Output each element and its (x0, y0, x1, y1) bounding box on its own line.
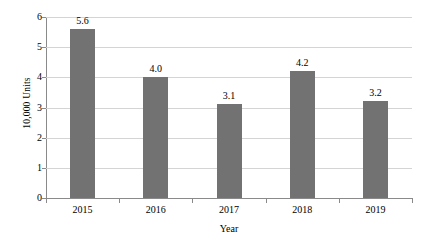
x-tick-mark-2 (192, 198, 193, 203)
plot-area: 5.64.03.14.23.2 (46, 17, 412, 198)
y-tick-label-0: 0 (20, 193, 42, 203)
y-tick-label-4: 4 (20, 72, 42, 82)
bar-2015 (70, 29, 95, 198)
x-tick-label-2019: 2019 (339, 204, 412, 216)
bar-2017 (217, 104, 242, 198)
x-tick-mark-0 (46, 198, 47, 203)
x-axis-title: Year (46, 223, 412, 235)
gridline-0 (46, 198, 412, 199)
y-tick-label-6: 6 (20, 12, 42, 22)
x-tick-label-2016: 2016 (119, 204, 192, 216)
y-tick-label-2: 2 (20, 133, 42, 143)
gridline-4 (46, 77, 412, 78)
bar-value-label-2016: 4.0 (136, 63, 176, 74)
x-tick-mark-1 (119, 198, 120, 203)
y-tick-label-3: 3 (20, 103, 42, 113)
x-tick-mark-4 (339, 198, 340, 203)
x-tick-label-2018: 2018 (266, 204, 339, 216)
bar-value-label-2019: 3.2 (355, 87, 395, 98)
bar-value-label-2015: 5.6 (63, 15, 103, 26)
bar-value-label-2017: 3.1 (209, 90, 249, 101)
bar-value-label-2018: 4.2 (282, 57, 322, 68)
bar-2016 (143, 77, 168, 198)
gridline-5 (46, 47, 412, 48)
x-tick-label-2017: 2017 (192, 204, 265, 216)
bar-2018 (290, 71, 315, 198)
y-tick-label-5: 5 (20, 42, 42, 52)
x-tick-mark-3 (266, 198, 267, 203)
y-tick-label-1: 1 (20, 163, 42, 173)
y-axis-ticks: 0123456 (0, 17, 42, 199)
bar-2019 (363, 101, 388, 198)
x-tick-label-2015: 2015 (46, 204, 119, 216)
bar-chart-figure: 10,000 Units 0123456 5.64.03.14.23.2 201… (0, 0, 432, 250)
x-tick-mark-5 (412, 198, 413, 203)
